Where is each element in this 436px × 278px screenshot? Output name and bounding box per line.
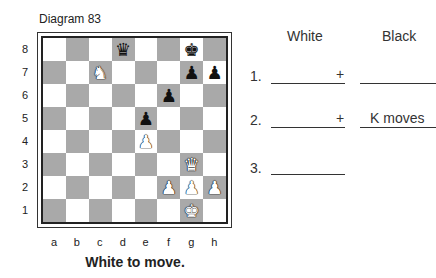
square-b8	[66, 38, 89, 61]
square-g2: ♟	[180, 176, 203, 199]
rank-label-6: 6	[20, 89, 30, 101]
square-g8: ♚	[180, 38, 203, 61]
rank-label-3: 3	[20, 158, 30, 170]
square-a2	[43, 176, 66, 199]
square-d6	[112, 84, 135, 107]
square-f4	[157, 130, 180, 153]
square-f7	[157, 61, 180, 84]
square-f1	[157, 199, 180, 222]
file-label-e: e	[135, 236, 157, 248]
square-c8	[89, 38, 112, 61]
file-label-h: h	[203, 236, 225, 248]
square-h5	[203, 107, 226, 130]
square-b4	[66, 130, 89, 153]
file-label-g: g	[180, 236, 202, 248]
square-c1	[89, 199, 112, 222]
rank-label-8: 8	[20, 43, 30, 55]
square-a6	[43, 84, 66, 107]
square-d7	[112, 61, 135, 84]
square-a8	[43, 38, 66, 61]
white-pawn-icon: ♟	[161, 179, 177, 197]
square-e7	[135, 61, 158, 84]
black-king-icon: ♚	[184, 41, 200, 59]
square-e4: ♟	[135, 130, 158, 153]
square-g4	[180, 130, 203, 153]
square-c4	[89, 130, 112, 153]
file-label-f: f	[158, 236, 180, 248]
black-pawn-icon: ♟	[161, 87, 177, 105]
square-a3	[43, 153, 66, 176]
chess-board: ♛♚♞♟♟♟♟♟♛♟♟♟♚	[43, 38, 226, 222]
square-d4	[112, 130, 135, 153]
square-c7: ♞	[89, 61, 112, 84]
square-a7	[43, 61, 66, 84]
rank-label-5: 5	[20, 112, 30, 124]
white-knight-icon: ♞	[92, 64, 108, 82]
white-move-3-blank[interactable]	[271, 174, 345, 175]
square-d3	[112, 153, 135, 176]
move-number-2: 2.	[250, 112, 262, 128]
white-pawn-icon: ♟	[184, 179, 200, 197]
square-c2	[89, 176, 112, 199]
black-move-1-blank[interactable]	[360, 83, 436, 84]
square-c5	[89, 107, 112, 130]
white-pawn-icon: ♟	[206, 179, 222, 197]
black-pawn-icon: ♟	[206, 64, 222, 82]
white-move-1-blank[interactable]	[271, 83, 345, 84]
square-g1: ♚	[180, 199, 203, 222]
square-h4	[203, 130, 226, 153]
square-e8	[135, 38, 158, 61]
white-queen-icon: ♛	[184, 156, 200, 174]
check-mark-1: +	[336, 66, 344, 82]
white-pawn-icon: ♟	[138, 133, 154, 151]
rank-label-2: 2	[20, 181, 30, 193]
square-f3	[157, 153, 180, 176]
black-move-2-line[interactable]	[360, 127, 436, 128]
white-move-2-blank[interactable]	[271, 127, 345, 128]
square-h3	[203, 153, 226, 176]
square-f5	[157, 107, 180, 130]
black-move-2-text: K moves	[370, 110, 424, 126]
black-queen-icon: ♛	[115, 41, 131, 59]
header-black: Black	[382, 28, 416, 44]
black-pawn-icon: ♟	[184, 64, 200, 82]
square-b2	[66, 176, 89, 199]
rank-label-7: 7	[20, 66, 30, 78]
square-f6: ♟	[157, 84, 180, 107]
file-label-c: c	[89, 236, 111, 248]
square-h8	[203, 38, 226, 61]
square-e3	[135, 153, 158, 176]
square-e1	[135, 199, 158, 222]
header-white: White	[287, 28, 323, 44]
square-f8	[157, 38, 180, 61]
square-d8: ♛	[112, 38, 135, 61]
square-h1	[203, 199, 226, 222]
square-c6	[89, 84, 112, 107]
square-b7	[66, 61, 89, 84]
rank-label-1: 1	[20, 204, 30, 216]
square-g5	[180, 107, 203, 130]
square-g7: ♟	[180, 61, 203, 84]
square-h2: ♟	[203, 176, 226, 199]
move-number-1: 1.	[250, 68, 262, 84]
square-a5	[43, 107, 66, 130]
square-b5	[66, 107, 89, 130]
move-number-3: 3.	[250, 160, 262, 176]
square-a1	[43, 199, 66, 222]
square-e6	[135, 84, 158, 107]
square-a4	[43, 130, 66, 153]
diagram-caption: Diagram 83	[39, 12, 101, 26]
to-move-caption: White to move.	[0, 254, 270, 270]
square-e2	[135, 176, 158, 199]
square-d2	[112, 176, 135, 199]
square-c3	[89, 153, 112, 176]
file-label-a: a	[43, 236, 65, 248]
square-f2: ♟	[157, 176, 180, 199]
rank-label-4: 4	[20, 135, 30, 147]
square-b1	[66, 199, 89, 222]
square-e5: ♟	[135, 107, 158, 130]
check-mark-2: +	[336, 110, 344, 126]
square-h6	[203, 84, 226, 107]
file-label-d: d	[112, 236, 134, 248]
square-g3: ♛	[180, 153, 203, 176]
